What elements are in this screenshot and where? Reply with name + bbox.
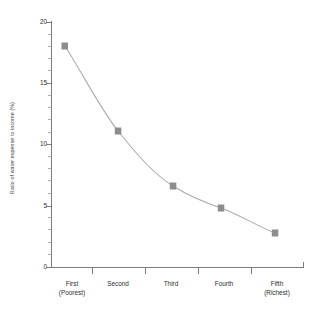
data-point-third <box>170 183 177 190</box>
x-tick-label-fifth: Fifth (Richest) <box>264 280 290 297</box>
x-tick-label-second-line1: Second <box>107 280 129 289</box>
x-tick-label-fifth-line1: Fifth <box>264 280 290 289</box>
x-tick-label-fourth: Fourth <box>215 280 233 289</box>
data-point-first <box>62 43 69 50</box>
x-tick-label-third: Third <box>164 280 179 289</box>
data-point-fifth <box>272 230 279 237</box>
x-tick-label-fourth-line1: Fourth <box>215 280 233 289</box>
data-point-fourth <box>218 205 225 212</box>
x-tick-label-first-line2: (Poorest) <box>59 289 85 298</box>
chart-container: 20 15 10 5 0 Ratio of water expense to i… <box>0 0 318 312</box>
x-tick-label-second: Second <box>107 280 129 289</box>
x-tick-label-third-line1: Third <box>164 280 179 289</box>
data-point-second <box>115 128 122 135</box>
data-markers <box>62 43 279 237</box>
x-tick-label-fifth-line2: (Richest) <box>264 289 290 298</box>
series-line <box>65 46 275 233</box>
plot-area <box>0 0 318 312</box>
x-tick-label-first-line1: First <box>59 280 85 289</box>
x-tick-label-first: First (Poorest) <box>59 280 85 297</box>
